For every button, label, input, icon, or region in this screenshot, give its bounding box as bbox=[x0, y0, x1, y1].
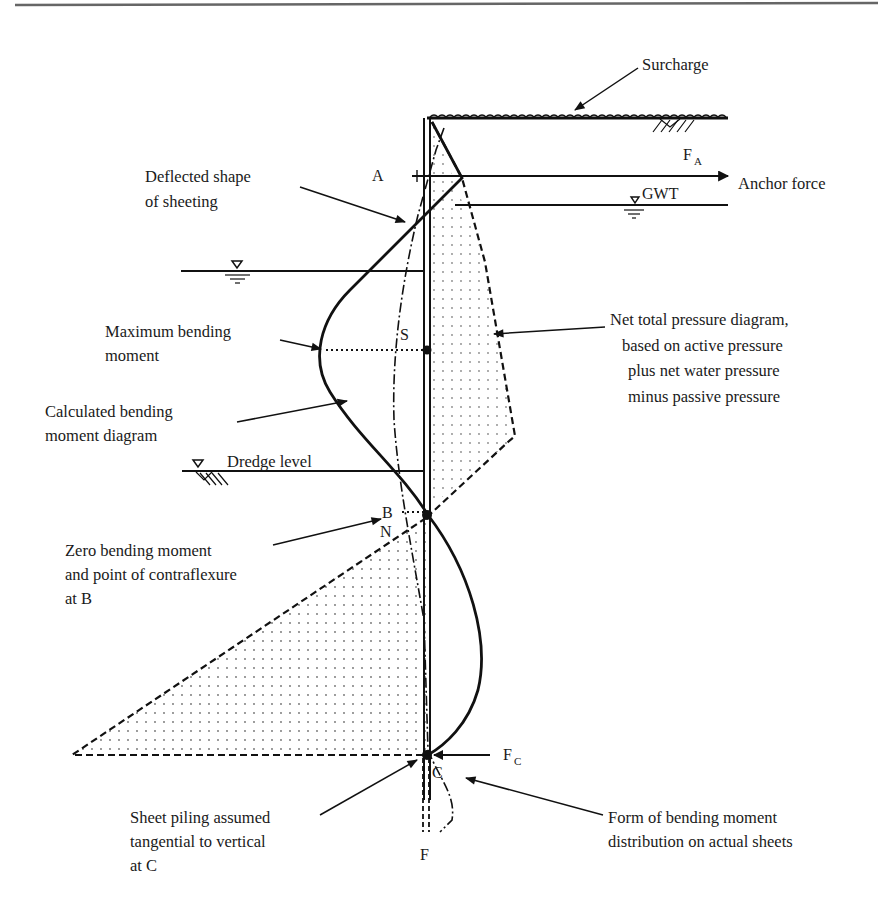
annotation-calculated-bm-diagram: Calculated bending moment diagram bbox=[45, 401, 347, 445]
svg-text:minus passive pressure: minus passive pressure bbox=[628, 387, 780, 406]
active-pressure-area bbox=[426, 122, 515, 510]
point-a-label: A bbox=[372, 167, 384, 184]
page-top-rule bbox=[15, 3, 878, 5]
svg-text:F: F bbox=[683, 146, 692, 163]
anchor-force-text: Anchor force bbox=[738, 174, 826, 193]
svg-text:Deflected shape: Deflected shape bbox=[145, 167, 251, 186]
surcharge-label: Surcharge bbox=[642, 55, 709, 74]
svg-text:at C: at C bbox=[130, 856, 157, 875]
annotation-tangential: Sheet piling assumed tangential to verti… bbox=[130, 760, 417, 875]
point-f-label: F bbox=[420, 846, 429, 863]
point-s-label: S bbox=[400, 326, 409, 343]
svg-text:based on active pressure: based on active pressure bbox=[622, 336, 783, 355]
gwt-symbol bbox=[624, 197, 644, 218]
svg-text:tangential to vertical: tangential to vertical bbox=[130, 832, 266, 851]
sheet-pile-diagram: Surcharge A F A Anchor force GWT bbox=[0, 0, 895, 922]
point-c-label: C bbox=[432, 764, 443, 781]
pile-embedment-dashed bbox=[423, 758, 429, 832]
annotation-net-pressure: Net total pressure diagram, based on act… bbox=[494, 310, 789, 406]
svg-text:Calculated bending: Calculated bending bbox=[45, 402, 173, 421]
svg-text:at B: at B bbox=[65, 589, 92, 608]
dredge-ground-symbol bbox=[193, 460, 228, 485]
point-b-marker bbox=[422, 510, 432, 520]
reaction-force-label: F C bbox=[503, 746, 521, 767]
annotation-actual-bm: Form of bending moment distribution on a… bbox=[466, 778, 793, 851]
svg-text:plus net water pressure: plus net water pressure bbox=[628, 361, 780, 380]
svg-text:Sheet piling assumed: Sheet piling assumed bbox=[130, 808, 271, 827]
surcharge-ground bbox=[427, 115, 728, 132]
point-s-marker bbox=[423, 346, 432, 355]
anchor-force-label: F A bbox=[683, 146, 702, 167]
annotation-deflected-shape: Deflected shape of sheeting bbox=[145, 167, 405, 222]
svg-text:moment diagram: moment diagram bbox=[45, 426, 157, 445]
svg-text:Form of bending moment: Form of bending moment bbox=[608, 808, 778, 827]
svg-text:Maximum bending: Maximum bending bbox=[105, 322, 231, 341]
dredge-level-label: Dredge level bbox=[227, 452, 312, 471]
annotation-max-bending-moment: Maximum bending moment bbox=[105, 322, 321, 365]
svg-text:Zero bending moment: Zero bending moment bbox=[65, 541, 212, 560]
svg-text:F: F bbox=[503, 746, 512, 763]
svg-text:and point of contraflexure: and point of contraflexure bbox=[65, 565, 237, 584]
surcharge-pointer bbox=[575, 68, 638, 110]
water-level-symbol bbox=[225, 261, 250, 283]
point-b-label: B bbox=[382, 504, 393, 521]
svg-text:of sheeting: of sheeting bbox=[145, 192, 218, 211]
point-c-marker bbox=[422, 750, 432, 760]
svg-text:Net total pressure diagram,: Net total pressure diagram, bbox=[610, 310, 789, 329]
gwt-label: GWT bbox=[642, 185, 679, 202]
svg-text:distribution on actual sheets: distribution on actual sheets bbox=[608, 832, 793, 851]
svg-text:moment: moment bbox=[105, 346, 159, 365]
svg-text:A: A bbox=[694, 155, 702, 167]
svg-text:C: C bbox=[514, 755, 521, 767]
point-n-label: N bbox=[380, 523, 392, 540]
